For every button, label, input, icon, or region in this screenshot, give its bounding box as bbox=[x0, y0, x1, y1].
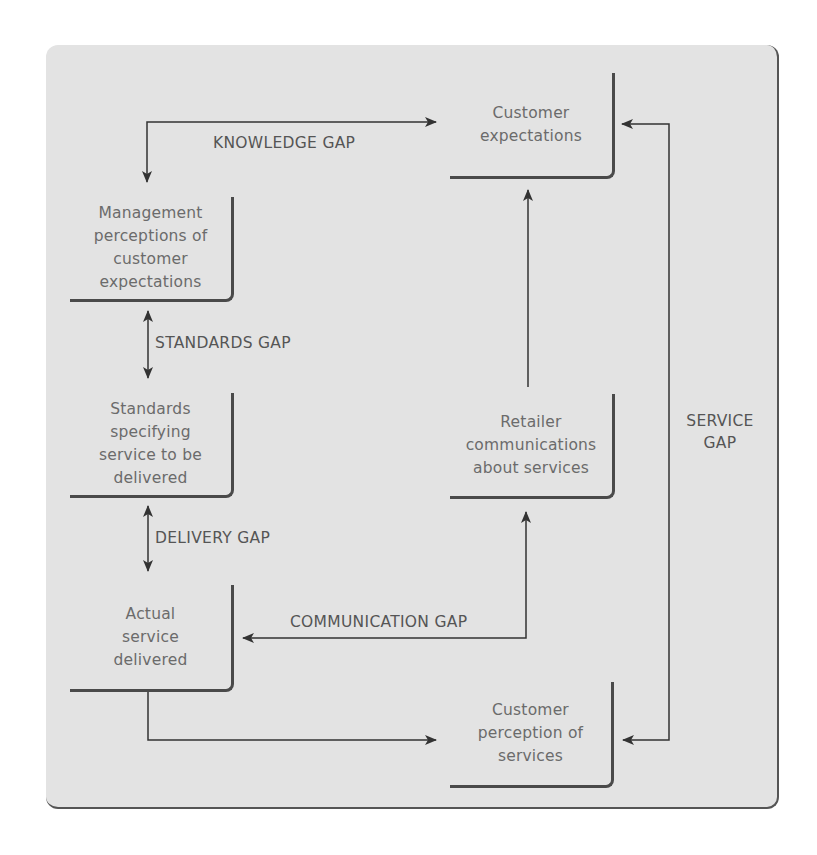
delivery-gap-label: DELIVERY GAP bbox=[155, 528, 270, 548]
box-line: about services bbox=[466, 457, 597, 480]
box-line: perception of bbox=[478, 722, 583, 745]
box-line: Customer bbox=[478, 699, 583, 722]
box-line: specifying bbox=[99, 421, 202, 444]
box-line: perceptions of bbox=[94, 225, 208, 248]
box-line: Actual bbox=[114, 603, 188, 626]
box-line: services bbox=[478, 745, 583, 768]
service-gap-line1: SERVICE bbox=[680, 410, 760, 432]
box-line: communications bbox=[466, 434, 597, 457]
box-management-perceptions: Management perceptions of customer expec… bbox=[70, 197, 234, 302]
box-actual-service: Actual service delivered bbox=[70, 585, 234, 692]
box-line: delivered bbox=[99, 467, 202, 490]
box-line: service bbox=[114, 626, 188, 649]
box-customer-expectations: Customer expectations bbox=[450, 73, 615, 179]
box-line: Standards bbox=[99, 398, 202, 421]
knowledge-gap-label: KNOWLEDGE GAP bbox=[213, 133, 355, 153]
box-line: expectations bbox=[94, 271, 208, 294]
box-line: delivered bbox=[114, 649, 188, 672]
box-line: service to be bbox=[99, 444, 202, 467]
service-gap-label: SERVICE GAP bbox=[680, 410, 760, 454]
box-customer-perception: Customer perception of services bbox=[450, 682, 614, 788]
box-line: Retailer bbox=[466, 411, 597, 434]
communication-gap-label: COMMUNICATION GAP bbox=[290, 612, 467, 632]
box-retailer-communications: Retailer communications about services bbox=[450, 394, 615, 499]
box-line: expectations bbox=[480, 125, 582, 148]
box-line: customer bbox=[94, 248, 208, 271]
service-gap-line2: GAP bbox=[680, 432, 760, 454]
box-line: Management bbox=[94, 202, 208, 225]
box-line: Customer bbox=[480, 102, 582, 125]
box-standards: Standards specifying service to be deliv… bbox=[70, 393, 234, 498]
standards-gap-label: STANDARDS GAP bbox=[155, 333, 291, 353]
